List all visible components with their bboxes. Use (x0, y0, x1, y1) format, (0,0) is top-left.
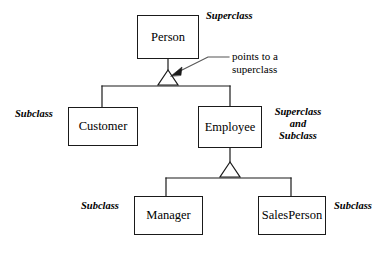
class-box-employee[interactable]: Employee (198, 106, 262, 148)
class-label-salesperson: SalesPerson (262, 209, 322, 222)
class-box-person[interactable]: Person (137, 15, 199, 59)
annotation-subclass-salesperson: Subclass (334, 200, 372, 212)
class-label-person: Person (151, 31, 185, 44)
class-label-manager: Manager (146, 209, 190, 222)
class-label-customer: Customer (79, 120, 128, 133)
callout-points-to-a-superclass: points to a superclass (232, 50, 278, 77)
callout-line-2: superclass (232, 63, 278, 76)
annotation-superclass-and-subclass-employee: Superclass and Subclass (269, 106, 327, 142)
class-box-customer[interactable]: Customer (68, 107, 138, 146)
callout-line-1: points to a (232, 50, 278, 63)
callout-arrowhead-icon (171, 67, 182, 76)
annotation-superclass-person: Superclass (206, 10, 253, 22)
callout-leader-line (178, 57, 229, 72)
class-label-employee: Employee (205, 121, 256, 134)
generalization-triangle-person (158, 70, 178, 85)
class-box-salesperson[interactable]: SalesPerson (258, 196, 326, 235)
class-box-manager[interactable]: Manager (134, 196, 203, 235)
annotation-line-and: and (269, 118, 327, 130)
annotation-line-superclass: Superclass (269, 106, 327, 118)
annotation-subclass-manager: Subclass (81, 200, 119, 212)
class-hierarchy-diagram: Person Customer Employee Manager SalesPe… (0, 0, 392, 254)
annotation-subclass-customer: Subclass (15, 108, 53, 120)
annotation-line-subclass: Subclass (269, 130, 327, 142)
generalization-triangle-employee (220, 162, 240, 177)
